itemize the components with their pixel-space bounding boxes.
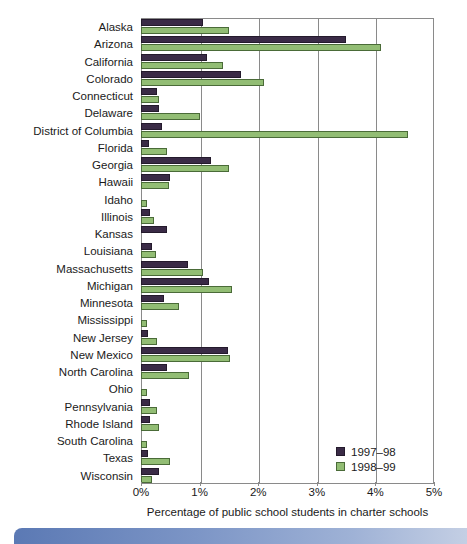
bar-row [141, 380, 434, 399]
bar-rows [141, 18, 434, 484]
bar-1997-98 [141, 209, 150, 216]
bar-row [141, 363, 434, 382]
bar-row [141, 87, 434, 106]
bottom-band-fill [14, 528, 467, 544]
bar-row [141, 156, 434, 175]
bar-row [141, 35, 434, 54]
bar-1998-99 [141, 200, 147, 207]
y-axis-label: Delaware [84, 104, 133, 123]
y-axis-label: Michigan [87, 277, 133, 296]
bar-1998-99 [141, 217, 154, 224]
legend-item: 1997–98 [336, 444, 431, 459]
bar-1998-99 [141, 389, 147, 396]
bar-1998-99 [141, 269, 203, 276]
bar-row [141, 104, 434, 123]
bar-row [141, 311, 434, 330]
bar-1997-98 [141, 278, 209, 285]
x-tick-label: 0% [133, 486, 150, 498]
y-axis-label: Arizona [94, 35, 133, 54]
y-axis-label: Minnesota [80, 294, 133, 313]
bar-row [141, 346, 434, 365]
bar-1997-98 [141, 226, 167, 233]
bar-1998-99 [141, 458, 170, 465]
y-axis-label: Alaska [98, 18, 133, 37]
bar-1998-99 [141, 79, 264, 86]
y-axis-label: Colorado [86, 70, 133, 89]
bar-row [141, 398, 434, 417]
legend-swatch-icon [336, 462, 345, 471]
bar-1998-99 [141, 372, 189, 379]
y-axis-label: Florida [98, 139, 133, 158]
bar-row [141, 191, 434, 210]
bar-1997-98 [141, 157, 211, 164]
x-axis-title: Percentage of public school students in … [141, 506, 434, 518]
y-axis-label: Hawaii [98, 173, 133, 192]
bar-1998-99 [141, 131, 408, 138]
bar-1998-99 [141, 407, 157, 414]
bar-row [141, 173, 434, 192]
bar-row [141, 242, 434, 261]
bar-1997-98 [141, 105, 159, 112]
bar-row [141, 122, 434, 141]
y-axis-labels: AlaskaArizonaCaliforniaColoradoConnectic… [0, 18, 137, 484]
bar-1997-98 [141, 71, 241, 78]
chart-container: AlaskaArizonaCaliforniaColoradoConnectic… [0, 0, 467, 544]
y-axis-label: Texas [103, 449, 133, 468]
y-axis-label: Massachusetts [56, 260, 133, 279]
bar-row [141, 277, 434, 296]
y-axis-label: New Jersey [73, 329, 133, 348]
bar-1998-99 [141, 44, 381, 51]
y-axis-label: South Carolina [57, 432, 133, 451]
bar-row [141, 225, 434, 244]
bar-1998-99 [141, 113, 200, 120]
y-axis-label: Wisconsin [81, 467, 133, 486]
bar-1997-98 [141, 330, 148, 337]
bar-1998-99 [141, 96, 159, 103]
y-axis-label: Mississippi [77, 311, 133, 330]
legend-label: 1998–99 [351, 461, 396, 473]
bar-1998-99 [141, 355, 230, 362]
x-tick-label: 5% [426, 486, 443, 498]
x-tick-label: 1% [191, 486, 208, 498]
bar-1997-98 [141, 399, 150, 406]
bar-1998-99 [141, 62, 223, 69]
bar-1997-98 [141, 261, 188, 268]
legend-item: 1998–99 [336, 459, 431, 474]
y-axis-label: Illinois [101, 208, 133, 227]
y-axis-label: Georgia [92, 156, 133, 175]
bar-1998-99 [141, 424, 159, 431]
bar-1997-98 [141, 416, 150, 423]
bar-1998-99 [141, 441, 147, 448]
bar-1997-98 [141, 140, 149, 147]
bar-1998-99 [141, 320, 147, 327]
y-axis-label: Ohio [109, 380, 133, 399]
bar-1997-98 [141, 174, 170, 181]
bar-row [141, 329, 434, 348]
y-axis-label: Idaho [104, 191, 133, 210]
bar-1997-98 [141, 88, 157, 95]
bar-1997-98 [141, 36, 346, 43]
bar-row [141, 294, 434, 313]
y-axis-label: California [84, 53, 133, 72]
bar-1997-98 [141, 19, 203, 26]
y-axis-label: Pennsylvania [65, 398, 133, 417]
y-axis-label: Kansas [95, 225, 133, 244]
y-axis-label: North Carolina [59, 363, 133, 382]
bar-row [141, 53, 434, 72]
bar-1997-98 [141, 364, 167, 371]
y-axis-label: Rhode Island [65, 415, 133, 434]
bar-row [141, 18, 434, 37]
bar-1998-99 [141, 286, 232, 293]
bar-1998-99 [141, 251, 156, 258]
bar-row [141, 415, 434, 434]
decorative-bottom-band [0, 520, 467, 544]
bar-1998-99 [141, 27, 229, 34]
chart-legend: 1997–981998–99 [336, 444, 431, 474]
bar-row [141, 208, 434, 227]
bar-1998-99 [141, 165, 229, 172]
y-axis-label: New Mexico [70, 346, 133, 365]
legend-label: 1997–98 [351, 446, 396, 458]
bar-1998-99 [141, 476, 152, 483]
bar-1998-99 [141, 148, 167, 155]
y-axis-label: Connecticut [72, 87, 133, 106]
